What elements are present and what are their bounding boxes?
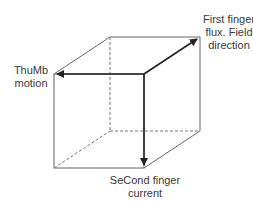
first-finger-label: First finger flux. Field direction: [200, 13, 253, 52]
hidden-edges: [54, 37, 200, 168]
cube-edges: [54, 37, 200, 168]
first-finger-field-arrow: [144, 39, 197, 74]
second-finger-label: SeCond finger current: [105, 174, 185, 200]
thumb-label: ThuMb motion: [10, 64, 52, 90]
front-face: [54, 74, 144, 168]
